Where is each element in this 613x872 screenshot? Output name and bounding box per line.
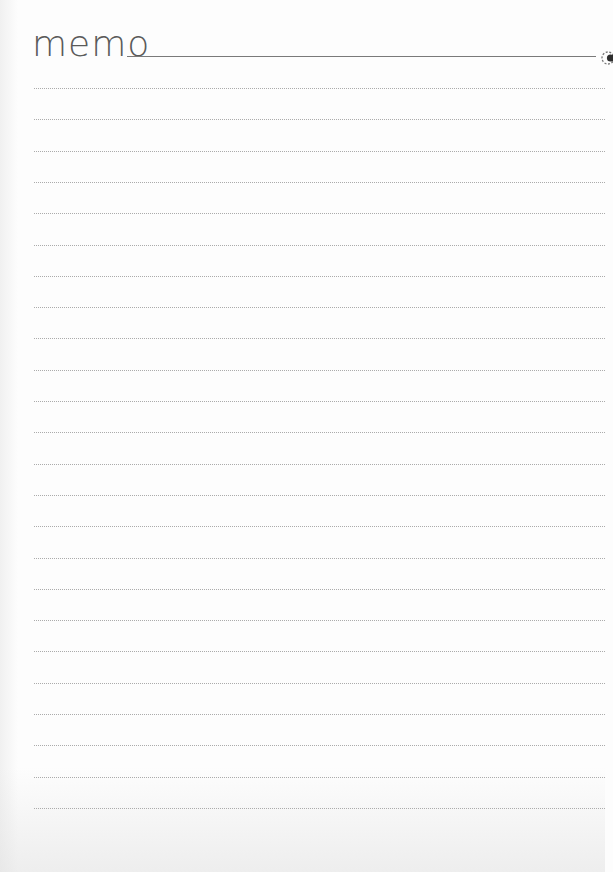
ruled-line[interactable] <box>34 88 605 89</box>
ruled-line[interactable] <box>34 464 605 465</box>
ruled-line[interactable] <box>34 182 605 183</box>
ruled-line[interactable] <box>34 808 605 809</box>
ruled-line[interactable] <box>34 495 605 496</box>
ruled-line[interactable] <box>34 683 605 684</box>
ruled-line[interactable] <box>34 213 605 214</box>
ruled-line[interactable] <box>34 651 605 652</box>
ruled-line[interactable] <box>34 589 605 590</box>
ruled-line[interactable] <box>34 119 605 120</box>
ruled-lines <box>34 0 605 872</box>
ruled-line[interactable] <box>34 714 605 715</box>
ruled-line[interactable] <box>34 526 605 527</box>
ruled-line[interactable] <box>34 620 605 621</box>
ruled-line[interactable] <box>34 276 605 277</box>
ruled-line[interactable] <box>34 432 605 433</box>
ruled-line[interactable] <box>34 338 605 339</box>
ruled-line[interactable] <box>34 777 605 778</box>
ruled-line[interactable] <box>34 558 605 559</box>
ruled-line[interactable] <box>34 307 605 308</box>
ruled-line[interactable] <box>34 245 605 246</box>
ruled-line[interactable] <box>34 151 605 152</box>
ruled-line[interactable] <box>34 745 605 746</box>
ruled-line[interactable] <box>34 370 605 371</box>
ruled-line[interactable] <box>34 401 605 402</box>
